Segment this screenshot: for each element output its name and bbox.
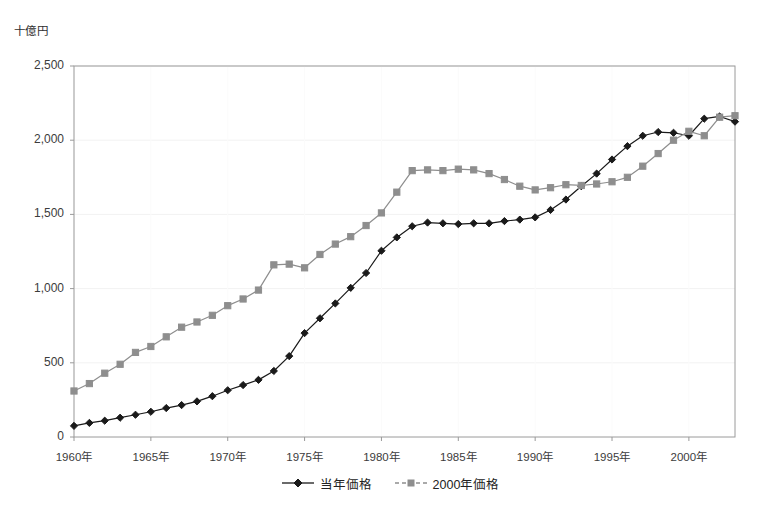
legend-label: 当年価格	[320, 474, 372, 493]
series-current-price	[70, 113, 738, 430]
y-tick-label: 1,000	[12, 281, 64, 295]
grid-lines	[74, 66, 735, 437]
x-tick-label: 1965年	[119, 448, 183, 464]
chart-legend: 当年価格2000年価格	[240, 470, 540, 496]
legend-item-constant-2000-price[interactable]: 2000年価格	[394, 474, 500, 493]
plot-frame	[70, 66, 735, 441]
y-tick-label: 2,000	[12, 132, 64, 146]
legend-square-marker-icon	[394, 477, 428, 489]
legend-item-current-price[interactable]: 当年価格	[281, 474, 372, 493]
x-tick-label: 1960年	[42, 448, 106, 464]
chart-figure: 十億円 05001,0001,5002,0002,500 1960年1965年1…	[0, 0, 760, 514]
x-tick-label: 1975年	[273, 448, 337, 464]
x-tick-label: 2000年	[657, 448, 721, 464]
data-series-layer	[70, 113, 738, 430]
series-constant-2000-price	[71, 113, 738, 394]
legend-label: 2000年価格	[433, 474, 500, 493]
x-tick-label: 1980年	[349, 448, 413, 464]
y-tick-label: 500	[12, 355, 64, 369]
x-tick-label: 1995年	[580, 448, 644, 464]
y-tick-label: 0	[12, 429, 64, 443]
x-tick-label: 1985年	[426, 448, 490, 464]
y-tick-label: 2,500	[12, 58, 64, 72]
plot-canvas	[0, 0, 760, 514]
x-tick-label: 1990年	[503, 448, 567, 464]
legend-diamond-marker-icon	[281, 477, 315, 489]
y-tick-label: 1,500	[12, 206, 64, 220]
x-tick-label: 1970年	[196, 448, 260, 464]
